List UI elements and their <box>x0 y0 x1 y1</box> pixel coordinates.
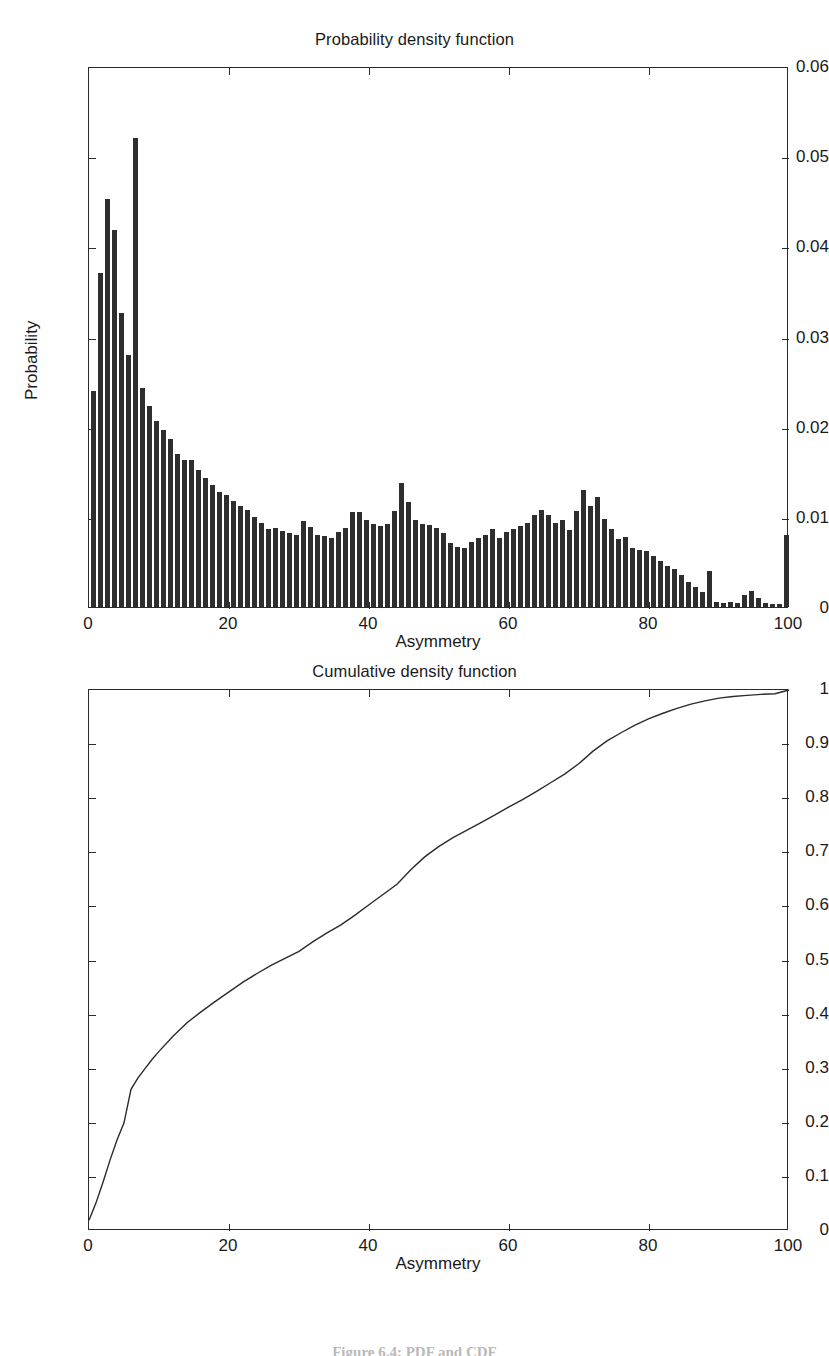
pdf-bar <box>105 199 110 607</box>
x-tick-mark <box>649 690 650 697</box>
pdf-bar <box>784 535 789 607</box>
y-tick-label: 0.05 <box>749 147 829 167</box>
pdf-bar <box>714 602 719 607</box>
pdf-bar <box>427 525 432 607</box>
pdf-plot-area <box>88 67 788 608</box>
pdf-bar <box>154 421 159 607</box>
y-tick-mark <box>89 852 96 853</box>
y-tick-mark <box>89 1015 96 1016</box>
pdf-bar <box>490 529 495 607</box>
x-tick-label: 80 <box>639 614 658 634</box>
x-tick-mark <box>369 602 370 609</box>
pdf-bar <box>588 506 593 607</box>
pdf-bar <box>140 388 145 607</box>
x-tick-mark <box>509 68 510 75</box>
pdf-bar <box>665 566 670 607</box>
x-tick-mark <box>509 1224 510 1231</box>
cdf-line-series <box>89 690 789 1231</box>
y-tick-label: 0.4 <box>749 1004 829 1024</box>
pdf-bar <box>126 355 131 607</box>
pdf-bar <box>518 526 523 607</box>
pdf-bar <box>462 548 467 608</box>
pdf-bar <box>378 526 383 607</box>
pdf-bar <box>630 548 635 608</box>
y-tick-label: 1 <box>749 679 829 699</box>
x-tick-label: 100 <box>774 614 802 634</box>
x-tick-mark <box>509 602 510 609</box>
x-tick-label: 20 <box>219 614 238 634</box>
pdf-bar <box>182 460 187 607</box>
pdf-bar <box>119 313 124 607</box>
pdf-bar <box>539 510 544 607</box>
pdf-bar <box>406 502 411 607</box>
pdf-bar <box>413 520 418 607</box>
pdf-bar <box>161 430 166 607</box>
x-tick-mark <box>229 1224 230 1231</box>
pdf-bar <box>574 511 579 607</box>
pdf-bar <box>210 485 215 607</box>
pdf-bar <box>399 483 404 607</box>
pdf-bar <box>742 595 747 607</box>
x-tick-label: 0 <box>83 1236 92 1256</box>
x-tick-label: 80 <box>639 1236 658 1256</box>
y-tick-label: 0.7 <box>749 841 829 861</box>
y-tick-mark <box>89 248 96 249</box>
pdf-bar <box>175 454 180 607</box>
pdf-bar <box>343 528 348 607</box>
pdf-bar <box>189 460 194 607</box>
pdf-bar <box>252 517 257 607</box>
pdf-bar <box>266 529 271 607</box>
pdf-chart-title: Probability density function <box>0 30 829 49</box>
pdf-bar <box>217 492 222 607</box>
pdf-bar <box>441 533 446 607</box>
pdf-bar <box>532 515 537 607</box>
y-tick-mark <box>89 519 96 520</box>
pdf-bar <box>637 550 642 607</box>
pdf-bar <box>259 523 264 607</box>
pdf-bar <box>476 538 481 607</box>
pdf-bar <box>133 138 138 607</box>
pdf-bar <box>329 538 334 607</box>
pdf-bar <box>609 529 614 607</box>
pdf-bar <box>322 536 327 607</box>
y-tick-label: 0.01 <box>749 508 829 528</box>
pdf-bar <box>728 602 733 607</box>
pdf-bar <box>308 527 313 607</box>
x-tick-label: 20 <box>219 1236 238 1256</box>
y-tick-mark <box>89 1123 96 1124</box>
x-tick-mark <box>369 68 370 75</box>
pdf-bar <box>420 524 425 607</box>
x-tick-label: 60 <box>499 1236 518 1256</box>
y-tick-mark <box>89 339 96 340</box>
pdf-x-axis-label: Asymmetry <box>88 632 788 652</box>
pdf-bar <box>350 512 355 607</box>
pdf-bar <box>483 535 488 607</box>
x-tick-mark <box>649 68 650 75</box>
pdf-bar <box>721 603 726 607</box>
pdf-y-axis-label: Probability <box>22 321 42 400</box>
y-tick-mark <box>89 798 96 799</box>
pdf-bar <box>546 515 551 607</box>
pdf-bar <box>231 501 236 607</box>
y-tick-label: 0.02 <box>749 418 829 438</box>
pdf-bar <box>686 582 691 607</box>
pdf-bar <box>371 524 376 607</box>
pdf-bar <box>287 533 292 607</box>
y-tick-mark <box>89 1069 96 1070</box>
pdf-bar <box>511 529 516 607</box>
pdf-bar <box>196 470 201 607</box>
y-tick-label: 0.03 <box>749 328 829 348</box>
pdf-bar <box>455 547 460 607</box>
x-tick-mark <box>649 1224 650 1231</box>
cdf-panel: Cumulative density function Probability … <box>0 660 829 1320</box>
pdf-bar <box>525 523 530 607</box>
pdf-bar <box>560 520 565 607</box>
pdf-bar <box>735 603 740 608</box>
y-tick-mark <box>89 158 96 159</box>
pdf-bar <box>700 592 705 607</box>
pdf-bar <box>434 528 439 607</box>
pdf-bar <box>91 391 96 607</box>
pdf-bar <box>98 273 103 607</box>
y-tick-mark <box>89 429 96 430</box>
y-tick-label: 0.8 <box>749 787 829 807</box>
